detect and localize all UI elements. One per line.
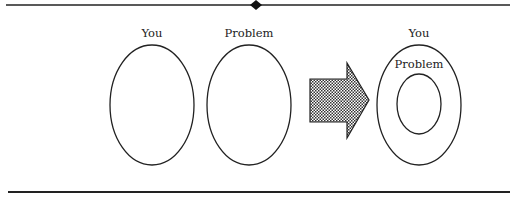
problem-ellipse-left — [207, 45, 291, 165]
you-problem-diagram: You Problem You Problem — [0, 0, 529, 197]
diamond-icon — [250, 0, 262, 10]
you-ellipse-left — [110, 45, 194, 165]
you-label-left: You — [141, 26, 163, 40]
problem-label-right: Problem — [395, 57, 444, 71]
problem-label-left: Problem — [225, 26, 274, 40]
problem-ellipse-right — [397, 74, 441, 134]
you-label-right: You — [408, 26, 430, 40]
right-arrow-icon — [310, 63, 369, 138]
top-divider — [6, 0, 510, 10]
